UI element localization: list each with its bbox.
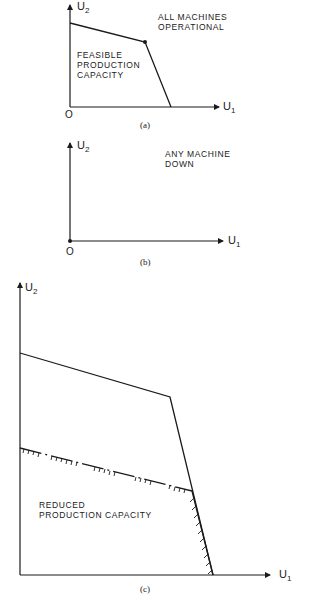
panel-b-origin-label: O	[66, 246, 74, 257]
panel-a-corner-point	[143, 40, 147, 44]
panel-c-caption: (c)	[140, 584, 150, 594]
panel-c-region-label: REDUCEDPRODUCTION CAPACITY	[39, 500, 152, 520]
panel-b-y-axis-label: U2	[77, 139, 89, 154]
panel-c-reduced-boundary-top	[20, 448, 192, 491]
panel-c-y-axis-label: U2	[25, 281, 37, 296]
panel-c-hatching-top	[23, 449, 185, 493]
panel-c-x-axis-label: U1	[279, 568, 291, 583]
panel-a-region-label: FEASIBLEPRODUCTIONCAPACITY	[77, 50, 140, 80]
panel-b-title: ANY MACHINEDOWN	[165, 149, 230, 169]
panel-b-x-axis-label: U1	[228, 234, 240, 249]
panel-a-y-axis-label: U2	[77, 0, 89, 15]
panel-a-x-axis-label: U1	[223, 100, 235, 115]
panel-a-title: ALL MACHINESOPERATIONAL	[158, 12, 227, 32]
panel-c-hatching-side	[190, 498, 212, 574]
panel-b-caption: (b)	[140, 257, 151, 267]
panel-c-full-capacity-boundary	[20, 353, 213, 575]
panel-b-origin-point	[68, 239, 72, 243]
panel-c	[20, 283, 270, 575]
panel-a-origin-label: O	[65, 109, 73, 120]
panel-a-caption: (a)	[140, 120, 150, 130]
